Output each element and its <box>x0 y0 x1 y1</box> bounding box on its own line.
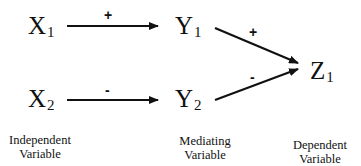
label-dependent-variable: Dependent Variable <box>270 138 361 166</box>
arrow-y2-to-z1 <box>215 69 298 100</box>
label-independent-line2: Variable <box>0 147 90 161</box>
label-mediating-line1: Mediating <box>155 134 255 148</box>
node-x1: X1 <box>28 13 55 38</box>
sign-x1-y1: + <box>104 8 112 22</box>
node-x2-letter: X <box>28 85 46 112</box>
node-x2: X2 <box>28 86 55 111</box>
node-y2: Y2 <box>175 86 202 111</box>
label-mediating-variable: Mediating Variable <box>155 134 255 162</box>
label-independent-variable: Independent Variable <box>0 133 90 161</box>
node-z1-subscript: 1 <box>326 69 334 85</box>
node-x1-subscript: 1 <box>47 24 55 40</box>
node-y1: Y1 <box>175 13 202 38</box>
node-y2-letter: Y <box>175 85 193 112</box>
sign-y1-z1: + <box>249 25 257 39</box>
label-mediating-line2: Variable <box>155 148 255 162</box>
label-dependent-line1: Dependent <box>270 138 361 152</box>
node-y1-letter: Y <box>175 12 193 39</box>
node-y1-subscript: 1 <box>194 24 202 40</box>
node-z1-letter: Z <box>310 57 325 84</box>
label-dependent-line2: Variable <box>270 152 361 166</box>
sign-x2-y2: - <box>105 83 110 97</box>
sign-y2-z1: - <box>250 70 255 84</box>
node-z1: Z1 <box>310 58 334 83</box>
node-x2-subscript: 2 <box>47 97 55 113</box>
node-y2-subscript: 2 <box>194 97 202 113</box>
node-x1-letter: X <box>28 12 46 39</box>
label-independent-line1: Independent <box>0 133 90 147</box>
